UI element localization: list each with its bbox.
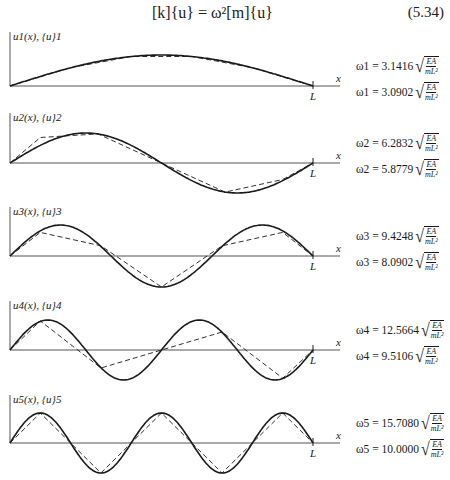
- sqrt-factor: √EAmL²: [415, 226, 438, 246]
- sqrt-factor: √EAmL²: [421, 320, 444, 340]
- exact-frequency: ω3 = 9.4248√EAmL²: [356, 226, 439, 246]
- fe-frequency: ω1 = 3.0902√EAmL²: [356, 82, 439, 102]
- exact-frequency: ω5 = 15.7080√EAmL²: [356, 413, 444, 433]
- exact-mode-curve: [10, 55, 313, 86]
- sqrt-factor: √EAmL²: [415, 252, 438, 272]
- x-axis-label: x: [336, 149, 341, 161]
- exact-frequency: ω4 = 12.5664√EAmL²: [356, 320, 444, 340]
- frequency-value: ω3 = 9.4248: [356, 230, 413, 242]
- sqrt-factor: √EAmL²: [415, 346, 438, 366]
- sqrt-factor: √EAmL²: [415, 133, 438, 153]
- frequency-value: ω3 = 8.0902: [356, 256, 413, 268]
- sqrt-factor: √EAmL²: [415, 56, 438, 76]
- mode-ylabel: u1(x), {u}1: [13, 30, 62, 42]
- frequency-value: ω2 = 5.8779: [356, 163, 413, 175]
- x-axis-label: x: [336, 72, 341, 84]
- fe-frequency: ω5 = 10.0000√EAmL²: [356, 439, 444, 459]
- mode-ylabel: u3(x), {u}3: [13, 205, 62, 217]
- frequency-value: ω1 = 3.1416: [356, 60, 413, 72]
- frequency-value: ω1 = 3.0902: [356, 86, 413, 98]
- mode-ylabel: u4(x), {u}4: [13, 299, 62, 311]
- mode-ylabel: u5(x), {u}5: [13, 393, 62, 405]
- x-axis-label: x: [336, 336, 341, 348]
- fe-mode-polyline: [10, 232, 313, 287]
- sqrt-factor: √EAmL²: [415, 159, 438, 179]
- L-label: L: [310, 447, 316, 459]
- sqrt-factor: √EAmL²: [421, 413, 444, 433]
- fe-frequency: ω3 = 8.0902√EAmL²: [356, 252, 439, 272]
- fe-frequency: ω2 = 5.8779√EAmL²: [356, 159, 439, 179]
- frequency-value: ω2 = 6.2832: [356, 137, 413, 149]
- exact-frequency: ω2 = 6.2832√EAmL²: [356, 133, 439, 153]
- L-label: L: [310, 260, 316, 272]
- L-label: L: [310, 90, 316, 102]
- L-label: L: [310, 167, 316, 179]
- x-axis-label: x: [336, 242, 341, 254]
- frequency-value: ω4 = 9.5106: [356, 350, 413, 362]
- frequency-value: ω5 = 10.0000: [356, 443, 419, 455]
- x-axis-label: x: [336, 429, 341, 441]
- exact-frequency: ω1 = 3.1416√EAmL²: [356, 56, 439, 76]
- mode-ylabel: u2(x), {u}2: [13, 111, 62, 123]
- sqrt-factor: √EAmL²: [415, 82, 438, 102]
- sqrt-factor: √EAmL²: [421, 439, 444, 459]
- L-label: L: [310, 354, 316, 366]
- fe-frequency: ω4 = 9.5106√EAmL²: [356, 346, 439, 366]
- frequency-value: ω5 = 15.7080: [356, 417, 419, 429]
- frequency-value: ω4 = 12.5664: [356, 324, 419, 336]
